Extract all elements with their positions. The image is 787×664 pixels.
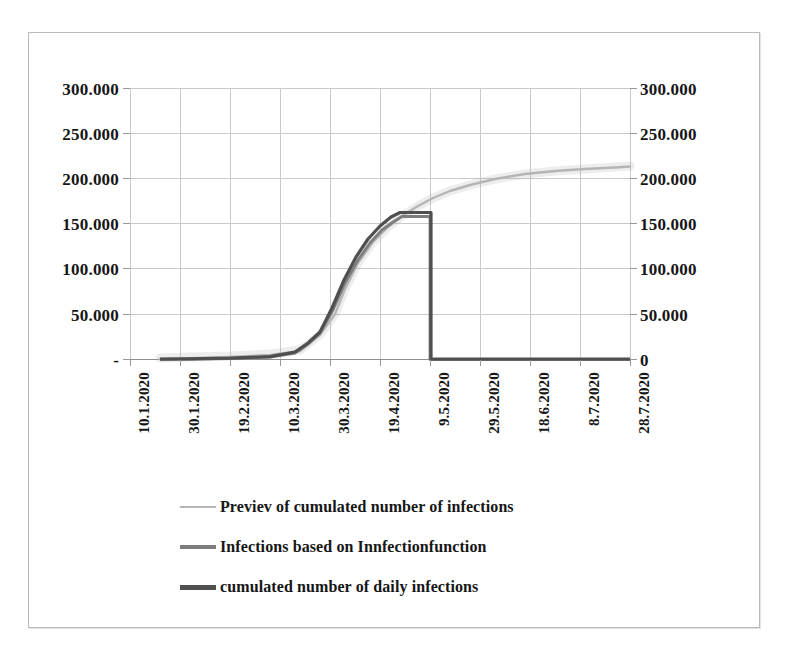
chart-area: 300.000 250.000 200.000 150.000 100.000 …: [0, 0, 787, 664]
x-axis-tick: [530, 360, 531, 366]
chart-legend: Previev of cumulated number of infection…: [130, 487, 630, 607]
x-axis-label: 19.4.2020: [386, 372, 403, 434]
x-axis-tick: [430, 360, 431, 366]
x-axis-tick: [380, 360, 381, 366]
x-axis-label: 18.6.2020: [536, 372, 553, 434]
x-axis-label: 29.5.2020: [486, 372, 503, 434]
series-line-preview: [160, 167, 630, 360]
series-line-cumulated-daily: [160, 213, 630, 360]
legend-entry-infectionfunction[interactable]: Infections based on Innfectionfunction: [130, 527, 630, 567]
y-axis-left-label: 200.000: [62, 171, 119, 188]
legend-swatch-preview-icon: [180, 506, 216, 508]
y-axis-left-label: 250.000: [62, 126, 119, 143]
legend-label-infectionfunction: Infections based on Innfectionfunction: [220, 538, 487, 556]
x-axis-tick: [230, 360, 231, 366]
x-axis-label: 28.7.2020: [636, 372, 653, 434]
legend-swatch-cumulated-daily-icon: [180, 585, 216, 590]
series-container: [130, 88, 630, 360]
series-line-infectionfunction: [160, 217, 630, 360]
y-axis-left-label: 100.000: [62, 261, 119, 278]
legend-entry-cumulated-daily[interactable]: cumulated number of daily infections: [130, 567, 630, 607]
y-axis-right-label: 250.000: [640, 126, 697, 143]
x-axis-label: 19.2.2020: [236, 372, 253, 434]
y-axis-left-label: -: [113, 352, 119, 369]
y-axis-left-tick: [123, 133, 130, 134]
y-axis-left-tick: [123, 268, 130, 269]
y-axis-right-label: 0: [640, 352, 649, 369]
y-axis-left-label: 150.000: [62, 216, 119, 233]
legend-label-preview: Previev of cumulated number of infection…: [220, 498, 514, 516]
y-axis-right-label: 200.000: [640, 171, 697, 188]
y-axis-left-tick: [123, 223, 130, 224]
y-axis-right-tick: [630, 88, 637, 89]
x-axis-tick: [630, 360, 631, 366]
x-axis-tick: [280, 360, 281, 366]
x-axis-label: 10.3.2020: [286, 372, 303, 434]
y-axis-right-tick: [630, 178, 637, 179]
legend-swatch-infectionfunction-icon: [180, 545, 216, 549]
legend-label-cumulated-daily: cumulated number of daily infections: [220, 578, 478, 596]
legend-entry-preview[interactable]: Previev of cumulated number of infection…: [130, 487, 630, 527]
y-axis-left-label: 50.000: [71, 307, 119, 324]
x-axis-tick: [580, 360, 581, 366]
gridline-vertical: [630, 88, 631, 360]
y-axis-right-label: 150.000: [640, 216, 697, 233]
x-axis-tick: [180, 360, 181, 366]
x-axis-tick: [130, 360, 131, 366]
y-axis-right-tick: [630, 133, 637, 134]
x-axis-label: 9.5.2020: [436, 372, 453, 426]
y-axis-left-label: 300.000: [62, 81, 119, 98]
x-axis-label: 10.1.2020: [136, 372, 153, 434]
y-axis-right-tick: [630, 359, 637, 360]
y-axis-left-tick: [123, 314, 130, 315]
x-axis-tick: [480, 360, 481, 366]
x-axis-tick: [330, 360, 331, 366]
series-halo: [160, 166, 630, 358]
y-axis-right-tick: [630, 223, 637, 224]
y-axis-left-tick: [123, 178, 130, 179]
y-axis-right-label: 50.000: [640, 307, 688, 324]
y-axis-right-label: 100.000: [640, 261, 697, 278]
x-axis-label: 30.1.2020: [186, 372, 203, 434]
y-axis-right-tick: [630, 268, 637, 269]
y-axis-right-tick: [630, 314, 637, 315]
x-axis-label: 8.7.2020: [586, 372, 603, 426]
x-axis-label: 30.3.2020: [336, 372, 353, 434]
y-axis-left-tick: [123, 359, 130, 360]
y-axis-right-label: 300.000: [640, 81, 697, 98]
y-axis-left-tick: [123, 88, 130, 89]
